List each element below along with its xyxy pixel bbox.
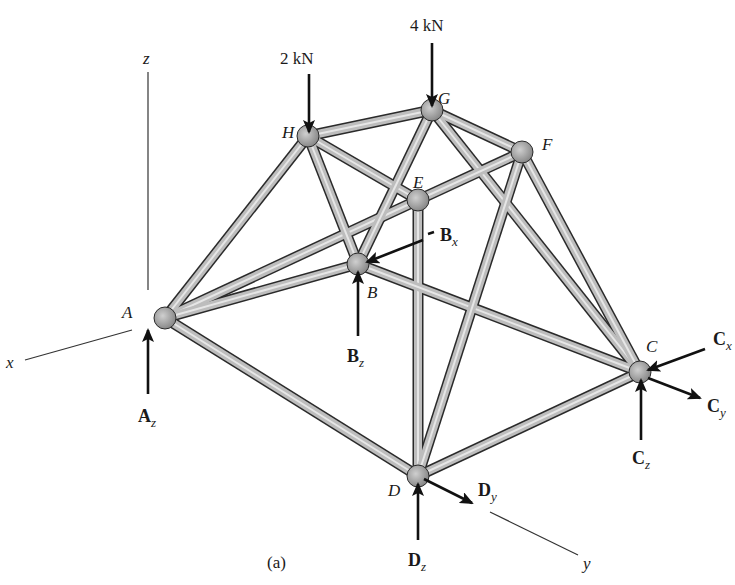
member-highlight-FD	[418, 152, 522, 476]
reaction-label-Bz: Bz	[347, 346, 364, 370]
reaction-label-Az: Az	[138, 406, 156, 430]
y-axis	[490, 512, 578, 555]
joint-label-G: G	[438, 89, 450, 108]
reaction-label-Cx: Cx	[713, 329, 732, 353]
figure-caption: (a)	[267, 553, 286, 572]
joint-B	[347, 253, 369, 275]
joint-label-A: A	[121, 303, 133, 322]
reaction-label-Cz: Cz	[632, 448, 650, 472]
load-label-4kN: 4 kN	[410, 16, 444, 35]
reaction-arrow-Cy	[648, 378, 700, 398]
load-label-2kN: 2 kN	[280, 49, 314, 68]
joint-label-F: F	[541, 135, 553, 154]
joint-A	[154, 307, 176, 329]
reaction-label-Dz: Dz	[408, 550, 426, 574]
x-axis	[25, 330, 132, 360]
reaction-label-Bx: Bx	[440, 225, 458, 249]
member-highlight-HG	[308, 110, 432, 136]
joint-label-H: H	[281, 123, 296, 142]
joint-label-E: E	[412, 173, 424, 192]
joint-E	[407, 189, 429, 211]
joint-label-C: C	[646, 337, 658, 356]
reaction-label-Dy: Dy	[478, 480, 497, 504]
reaction-label-Cy: Cy	[707, 396, 726, 420]
z-axis-label: z	[142, 49, 150, 68]
joint-F	[511, 141, 533, 163]
member-highlight-AD	[165, 318, 418, 476]
bx-leader-tick	[428, 232, 434, 234]
joint-C	[629, 361, 651, 383]
joint-label-B: B	[367, 283, 378, 302]
truss-members	[165, 110, 640, 476]
x-axis-label: x	[5, 353, 14, 372]
reaction-arrow-Dy	[424, 479, 472, 503]
joint-label-D: D	[387, 481, 401, 500]
space-truss-figure: z x y A B C D E F G H 2 kN 4 kN Az Bx Bz…	[0, 0, 735, 585]
joint-D	[407, 465, 429, 487]
y-axis-label: y	[581, 554, 591, 573]
